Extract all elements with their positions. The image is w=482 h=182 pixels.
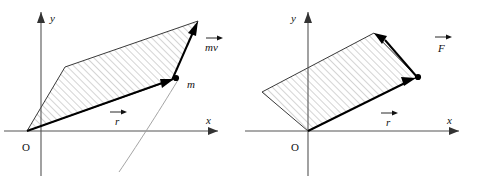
origin-label: O (291, 141, 299, 153)
r-overset-arrowhead-icon (392, 111, 398, 116)
right-diagram-svg: y x O r F (241, 0, 482, 182)
position-vector-label: r (115, 115, 120, 127)
particle-dot (173, 75, 179, 81)
particle-label: m (187, 78, 195, 90)
origin-label: O (22, 141, 30, 153)
position-vector-arrowhead-icon (160, 79, 174, 88)
application-point-dot (415, 74, 421, 80)
angular-momentum-panel: y x O r mv m (0, 0, 241, 182)
y-axis-arrow-icon (304, 12, 312, 23)
y-axis-arrow-icon (37, 12, 45, 23)
cross-product-area (27, 21, 198, 131)
mv-overset-arrowhead-icon (217, 36, 223, 41)
force-vector-label: F (437, 42, 445, 54)
force-vector-label-group: F (435, 35, 452, 55)
F-overset-arrowhead-icon (446, 35, 452, 40)
momentum-vector-label: mv (205, 41, 218, 53)
position-vector-label-group: r (110, 110, 127, 128)
left-diagram-svg: y x O r mv m (0, 0, 241, 182)
position-vector-label: r (386, 116, 391, 128)
x-axis-label: x (446, 114, 452, 126)
r-overset-arrowhead-icon (121, 110, 127, 115)
y-axis-label: y (290, 12, 296, 24)
torque-panel: y x O r F (241, 0, 482, 182)
x-axis-label: x (205, 114, 211, 126)
figure-canvas: y x O r mv m (0, 0, 482, 182)
position-vector-label-group: r (381, 111, 398, 129)
x-axis-arrow-icon (208, 127, 218, 135)
y-axis-label: y (49, 12, 55, 24)
x-axis-arrow-icon (449, 127, 459, 135)
momentum-vector-label-group: mv (205, 36, 223, 54)
